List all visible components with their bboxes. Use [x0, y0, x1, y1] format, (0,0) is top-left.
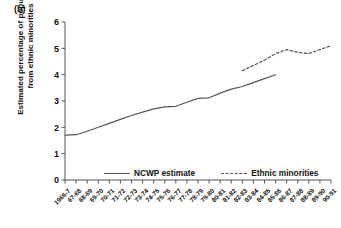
y-tick-label: 0 — [54, 175, 59, 185]
y-tick-label: 1 — [54, 149, 59, 159]
y-tick-label: 3 — [54, 96, 59, 106]
axes — [62, 22, 332, 184]
legend-item-ncwp-estimate: NCWP estimate — [104, 168, 195, 178]
y-tick-label: 5 — [54, 44, 59, 54]
legend-solid-line-icon — [104, 173, 130, 174]
legend-label-ncwp-estimate: NCWP estimate — [134, 168, 195, 178]
legend-item-ethnic-minorities: Ethnic minorities — [221, 168, 318, 178]
y-tick-labels: 0123456 — [54, 17, 59, 185]
figure-panel-b: (b) Estimated percentage of population f… — [0, 0, 341, 228]
plot-area: 0123456 — [0, 0, 341, 228]
y-tick-label: 6 — [54, 17, 59, 27]
chart-legend: NCWP estimate Ethnic minorities — [104, 166, 336, 180]
legend-label-ethnic-minorities: Ethnic minorities — [251, 168, 318, 178]
y-tick-label: 2 — [54, 123, 59, 133]
y-tick-label: 4 — [54, 70, 59, 80]
legend-dashed-line-icon — [221, 173, 247, 174]
series-line-ncwp-estimate — [65, 75, 276, 136]
data-series — [65, 46, 331, 136]
series-line-ethnic-minorities — [242, 46, 331, 71]
